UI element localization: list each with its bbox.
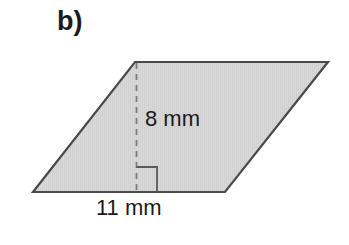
height-dimension-label: 8 mm (145, 108, 200, 130)
part-label: b) (57, 8, 82, 35)
geometry-figure-canvas: b) 8 mm 11 mm (0, 0, 349, 245)
base-dimension-label: 11 mm (96, 197, 162, 219)
